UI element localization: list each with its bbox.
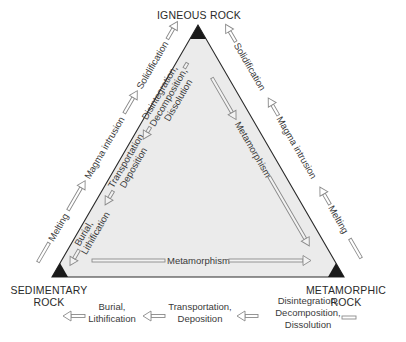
outer-bottom-dissolution-label: Dissolution [285, 319, 331, 330]
outer-bottom-lithification-label: Lithification [88, 313, 136, 324]
flow-arrow-shaft [349, 238, 363, 259]
outer-right-solidification-label: Solidification [232, 41, 268, 93]
flow-arrow-shaft [67, 187, 83, 211]
igneous-vertex-marker [190, 25, 206, 39]
flow-arrow-shaft [245, 315, 258, 318]
outer-bottom-transportation-label: Transportation, [168, 301, 232, 312]
outer-bottom-disintegration-label: Disintegration, [278, 295, 339, 306]
flow-arrow-shaft [71, 315, 85, 318]
arrow-head-icon [143, 311, 151, 321]
flow-arrow-shaft [229, 259, 303, 262]
flow-arrow-shaft [228, 31, 237, 43]
flow-arrow-shaft [92, 259, 165, 262]
flow-arrow-shaft [151, 315, 165, 318]
flow-arrow-shaft [166, 28, 175, 40]
flow-arrow-shaft [323, 193, 332, 205]
outer-right-melting-label: Melting [326, 203, 351, 235]
outer-bottom-decomposition-label: Decomposition, [275, 307, 340, 318]
arrow-head-icon [237, 311, 245, 321]
rock-cycle-diagram: IGNEOUS ROCK SEDIMENTARY ROCK METAMORPHI… [0, 0, 406, 342]
inner-bottom-metamorphism-label: Metamorphism [167, 255, 230, 266]
outer-bottom-deposition-label: Deposition [178, 313, 223, 324]
sedimentary-rock-label-line2: ROCK [33, 296, 64, 308]
arrow-head-icon [63, 311, 71, 321]
flow-arrow-shaft [123, 97, 135, 114]
flow-arrow-shaft [37, 242, 51, 263]
outer-bottom-flow: Disintegration, Decomposition, Dissoluti… [63, 295, 356, 330]
outer-bottom-burial-label: Burial, [99, 301, 126, 312]
sedimentary-rock-label-line1: SEDIMENTARY [10, 284, 87, 296]
outer-left-melting-label: Melting [46, 211, 71, 243]
flow-arrow-shaft [342, 316, 356, 319]
flow-arrow-shaft [271, 104, 280, 116]
igneous-rock-label: IGNEOUS ROCK [157, 9, 241, 21]
